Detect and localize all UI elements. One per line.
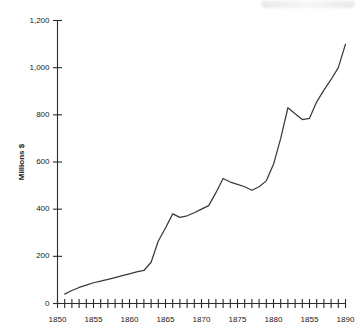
y-tick-label: 0 [45,299,50,308]
y-axis: 02004006008001,0001,200 [29,16,62,308]
x-tick-label: 1865 [157,315,175,324]
y-tick-label: 400 [36,204,50,213]
x-tick-label: 1855 [85,315,103,324]
x-tick-label: 1870 [193,315,211,324]
y-tick-label: 200 [36,251,50,260]
line-chart: 02004006008001,0001,200 1850185518601865… [0,0,361,334]
x-tick-label: 1875 [229,315,247,324]
y-tick-label: 1,000 [29,63,50,72]
series-line [65,44,346,294]
y-axis-title: Millions $ [17,143,26,180]
y-tick-label: 600 [36,157,50,166]
x-tick-label: 1880 [265,315,283,324]
scan-artifact [262,1,354,8]
y-tick-label: 1,200 [29,16,50,25]
x-axis: 185018551860186518701875188018551890 [49,299,355,324]
x-tick-label: 1890 [337,315,355,324]
x-tick-label: 1860 [121,315,139,324]
chart-figure: 02004006008001,0001,200 1850185518601865… [0,0,361,334]
x-tick-label: 1850 [49,315,67,324]
y-tick-label: 800 [36,110,50,119]
x-tick-label: 1855 [301,315,319,324]
data-series [65,44,346,294]
